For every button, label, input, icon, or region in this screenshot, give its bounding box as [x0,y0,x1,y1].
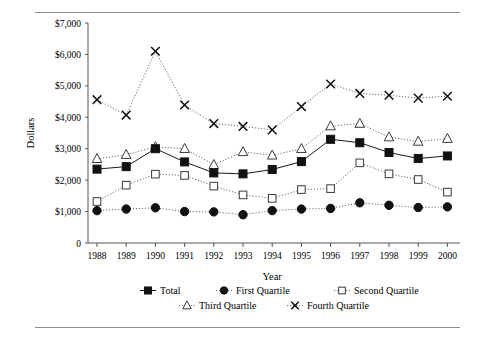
marker-open-square [152,170,160,178]
marker-filled-circle [210,208,218,216]
marker-open-square [385,170,393,178]
marker-filled-circle [180,207,188,215]
marker-open-square [298,186,306,194]
marker-open-triangle [238,147,248,156]
marker-open-triangle [413,136,423,145]
marker-open-triangle [180,144,190,153]
marker-cross [180,101,189,110]
marker-filled-circle [326,204,334,212]
y-tick-label: 0 [76,239,81,249]
marker-cross [291,302,299,310]
legend-label: Second Quartile [354,285,419,296]
marker-cross [151,47,160,56]
marker-filled-square [268,165,276,173]
marker-cross [356,89,365,98]
marker-cross [385,91,394,100]
marker-filled-square [414,154,422,162]
x-tick-label: 2000 [438,251,457,261]
legend-label: Fourth Quartile [307,300,369,311]
legend-item-total: Total [140,285,181,296]
marker-open-triangle [297,144,307,153]
marker-filled-circle [297,205,305,213]
marker-open-square [327,185,335,193]
x-tick-label: 1990 [146,251,165,261]
y-axis-title: Dollars [25,118,36,149]
marker-filled-square [181,158,189,166]
legend-label: Third Quartile [199,300,257,311]
marker-filled-square [297,158,305,166]
line-chart: 0$1,000$2,000$3,000$4,000$5,000$6,000$7,… [0,0,492,340]
legend: TotalFirst QuartileSecond QuartileThird … [140,285,419,311]
chart-svg: 0$1,000$2,000$3,000$4,000$5,000$6,000$7,… [0,0,492,340]
legend-item-third-quartile: Third Quartile [179,300,257,311]
series-fourth-quartile [93,47,452,134]
x-axis-title: Year [263,271,283,282]
marker-open-triangle [443,133,453,142]
marker-filled-square [327,135,335,143]
marker-filled-circle [268,206,276,214]
legend-item-second-quartile: Second Quartile [334,285,419,296]
y-tick-label: $6,000 [55,50,81,60]
marker-filled-circle [122,205,130,213]
y-tick-label: $1,000 [55,207,81,217]
marker-open-triangle [326,121,336,130]
marker-cross [326,80,335,89]
legend-label: First Quartile [236,285,290,296]
marker-open-square [356,159,364,167]
marker-open-square [414,176,422,184]
marker-filled-circle [151,204,159,212]
marker-filled-circle [93,206,101,214]
marker-open-triangle [121,149,131,158]
x-tick-label: 1991 [175,251,194,261]
x-tick-label: 1992 [204,251,223,261]
marker-filled-square [356,139,364,147]
marker-cross [122,111,131,120]
marker-filled-circle [385,201,393,209]
marker-open-triangle [209,160,219,169]
marker-filled-square [239,170,247,178]
marker-open-square [339,287,346,294]
y-tick-label: $2,000 [55,176,81,186]
x-tick-label: 1997 [350,251,369,261]
x-tick-label: 1995 [292,251,311,261]
marker-open-square [122,181,130,189]
marker-cross [93,95,102,104]
marker-open-triangle [384,132,394,141]
marker-open-square [210,182,218,190]
marker-filled-square [144,287,151,294]
marker-open-square [239,191,247,199]
legend-label: Total [160,285,181,296]
marker-filled-square [385,148,393,156]
marker-filled-square [151,145,159,153]
x-tick-label: 1999 [409,251,428,261]
marker-filled-square [93,165,101,173]
series-third-quartile [92,118,452,168]
x-tick-label: 1998 [380,251,399,261]
marker-open-square [181,172,189,180]
y-tick-label: $3,000 [55,144,81,154]
marker-filled-circle [220,287,227,294]
marker-cross [414,94,423,103]
marker-open-triangle [183,301,191,309]
marker-filled-circle [356,199,364,207]
y-tick-label: $5,000 [55,81,81,91]
marker-filled-square [122,163,130,171]
marker-cross [297,102,306,111]
marker-filled-square [443,152,451,160]
x-tick-label: 1988 [88,251,107,261]
y-tick-label: $7,000 [55,19,81,29]
marker-cross [268,126,277,135]
y-tick-label: $4,000 [55,113,81,123]
marker-filled-circle [239,211,247,219]
legend-item-fourth-quartile: Fourth Quartile [287,300,369,311]
marker-open-square [444,188,452,196]
marker-open-square [268,195,276,203]
legend-item-first-quartile: First Quartile [216,285,290,296]
x-tick-label: 1989 [117,251,136,261]
marker-open-triangle [355,118,365,127]
marker-filled-circle [443,203,451,211]
x-tick-label: 1993 [234,251,253,261]
marker-filled-square [210,169,218,177]
series-line [97,51,447,130]
marker-open-square [93,198,101,206]
